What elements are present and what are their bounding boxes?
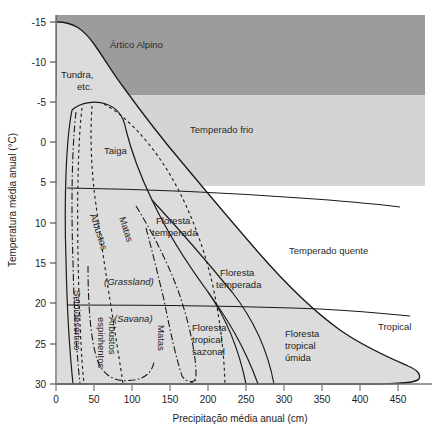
- y-axis-title: Temperatura média anual (°C): [7, 133, 18, 267]
- biome-label-tundra-line2: etc.: [77, 81, 92, 92]
- biome-label-arbustos-espinhentos-line1: Arbustos: [107, 317, 118, 355]
- biome-label-matas-tropicais: Matas: [156, 325, 167, 351]
- biome-label-floresta-tropical-sazonal-line2: tropical: [192, 334, 223, 345]
- x-tick-label: 150: [162, 394, 179, 405]
- x-axis-title: Precipitação média anual (cm): [172, 413, 307, 424]
- biome-label-tundra-line1: Tundra,: [61, 69, 93, 80]
- whittaker-biome-diagram: -15 -10 -5 0 5 10 15 20 25 30 0 50 100 1…: [0, 0, 442, 433]
- biome-label-floresta-tropical-sazonal-line3: sazonal: [192, 346, 225, 357]
- band-label-artico-alpino: Ártico Alpino: [110, 39, 163, 50]
- biome-label-savana: (Savana): [114, 313, 153, 324]
- y-tick-label: -10: [32, 57, 47, 68]
- biome-label-semideserto: Semidesértico: [72, 290, 83, 350]
- x-tick-label: 450: [390, 394, 407, 405]
- biome-label-arbustos-espinhentos-line2: espinhentos: [96, 317, 107, 368]
- x-tick-label: 350: [314, 394, 331, 405]
- x-tick-label: 300: [276, 394, 293, 405]
- y-tick-label: 10: [35, 218, 47, 229]
- y-tick-label: -15: [32, 17, 47, 28]
- band-label-tropical: Tropical: [378, 321, 411, 332]
- y-tick-label: 0: [40, 137, 46, 148]
- y-axis-ticks: [50, 22, 56, 384]
- y-tick-label: 30: [35, 379, 47, 390]
- band-label-temperado-quente: Temperado quente: [289, 245, 368, 256]
- x-tick-label: 250: [238, 394, 255, 405]
- biome-label-floresta-tropical-umida-line3: úmida: [285, 352, 312, 363]
- x-tick-label: 50: [88, 394, 100, 405]
- biome-label-floresta-tropical-umida-line1: Floresta: [285, 328, 320, 339]
- biome-label-floresta-tropical-sazonal-line1: Floresta: [192, 322, 227, 333]
- biome-label-floresta-temperada-line1: Floresta: [156, 215, 191, 226]
- x-tick-label: 200: [200, 394, 217, 405]
- biome-label-floresta-tropical-umida-line2: tropical: [285, 340, 316, 351]
- band-label-temperado-frio: Temperado frio: [190, 124, 253, 135]
- x-axis-ticks: [56, 384, 398, 391]
- y-tick-label: 25: [35, 339, 47, 350]
- biome-label-grassland: (Grassland): [104, 276, 154, 287]
- y-tick-label: 20: [35, 298, 47, 309]
- biome-label-floresta-temperada2-line2: temperada: [216, 279, 262, 290]
- x-tick-label: 400: [352, 394, 369, 405]
- y-tick-label: 15: [35, 258, 47, 269]
- y-tick-label: -5: [37, 97, 46, 108]
- biome-label-taiga: Taiga: [104, 145, 127, 156]
- x-tick-label: 100: [124, 394, 141, 405]
- biome-label-floresta-temperada2-line1: Floresta: [220, 267, 255, 278]
- y-tick-label: 5: [40, 177, 46, 188]
- x-tick-label: 0: [53, 394, 59, 405]
- biome-label-floresta-temperada-line2: temperada: [152, 227, 198, 238]
